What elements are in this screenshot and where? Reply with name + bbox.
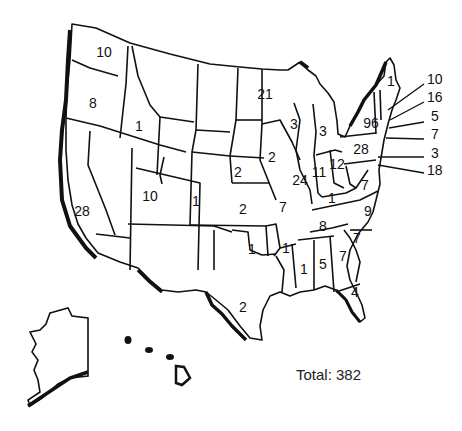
state-value-california: 28 bbox=[74, 204, 90, 218]
state-value-minnesota: 21 bbox=[257, 87, 273, 101]
state-value-maine: 1 bbox=[387, 74, 395, 88]
state-value-virginia: 7 bbox=[361, 178, 369, 192]
state-value-oregon: 8 bbox=[89, 96, 97, 110]
state-value-north-carolina: 9 bbox=[364, 204, 372, 218]
state-value-missouri: 7 bbox=[279, 200, 287, 214]
state-value-florida: 4 bbox=[351, 285, 359, 299]
hawaii-island-4 bbox=[176, 366, 190, 385]
hawaii-island-3 bbox=[166, 354, 174, 360]
state-value-arkansas: 1 bbox=[282, 241, 290, 255]
state-value-south-carolina: 7 bbox=[353, 231, 361, 245]
callout-rhode-island: 5 bbox=[431, 109, 439, 123]
state-value-idaho: 1 bbox=[135, 119, 143, 133]
state-value-pennsylvania: 28 bbox=[353, 142, 369, 156]
state-value-alabama: 5 bbox=[319, 257, 327, 271]
state-value-texas: 2 bbox=[239, 300, 247, 314]
state-value-colorado: 1 bbox=[192, 194, 200, 208]
state-value-michigan: 3 bbox=[319, 124, 327, 138]
state-value-tennessee: 8 bbox=[319, 219, 327, 233]
state-value-washington: 10 bbox=[96, 45, 112, 59]
state-value-nebraska: 2 bbox=[234, 165, 242, 179]
state-value-wisconsin: 3 bbox=[290, 117, 298, 131]
state-value-utah: 10 bbox=[142, 189, 158, 203]
hawaii-island-2 bbox=[145, 347, 153, 353]
us-map bbox=[0, 0, 462, 431]
state-value-kansas: 2 bbox=[239, 202, 247, 216]
state-value-ohio: 12 bbox=[329, 157, 345, 171]
state-value-oklahoma: 1 bbox=[248, 242, 256, 256]
alaska bbox=[28, 308, 88, 406]
callout-new-hampshire: 10 bbox=[427, 72, 443, 86]
state-value-illinois: 24 bbox=[292, 173, 308, 187]
state-value-indiana: 11 bbox=[312, 165, 327, 179]
callout-delaware: 3 bbox=[431, 146, 439, 160]
callout-connecticut: 7 bbox=[431, 127, 439, 141]
state-value-georgia: 7 bbox=[339, 249, 347, 263]
hawaii-island-1 bbox=[125, 336, 132, 344]
callout-massachusetts: 16 bbox=[427, 90, 443, 104]
state-value-mississippi: 1 bbox=[300, 262, 308, 276]
state-value-kentucky: 1 bbox=[328, 191, 336, 205]
callout-maryland: 18 bbox=[427, 163, 443, 177]
state-value-new-york: 96 bbox=[363, 116, 379, 130]
state-value-iowa: 2 bbox=[268, 150, 276, 164]
total-label: Total: 382 bbox=[296, 366, 361, 383]
